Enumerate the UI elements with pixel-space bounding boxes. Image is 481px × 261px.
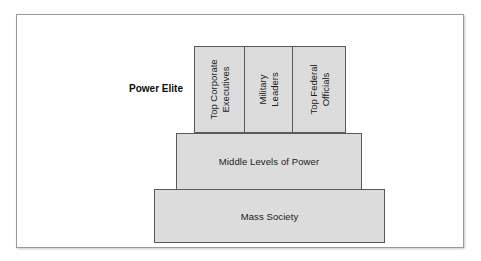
vertical-label-line2: Officials (319, 64, 331, 114)
tier-middle-levels-of-power: Middle Levels of Power (176, 133, 362, 190)
vertical-label-line1: Military (257, 72, 269, 106)
power-elite-cell-top-federal-officials: Top Federal Officials (292, 46, 346, 133)
diagram-canvas: Top Corporate Executives Military Leader… (0, 0, 481, 261)
tier-mass-society: Mass Society (154, 189, 385, 243)
diagram-frame: Top Corporate Executives Military Leader… (16, 14, 464, 248)
vertical-label-line2: Executives (220, 59, 232, 119)
vertical-label-line1: Top Federal (307, 64, 319, 114)
vertical-label-line1: Top Corporate (208, 59, 220, 119)
power-elite-cell-top-corporate-executives: Top Corporate Executives (194, 46, 245, 133)
power-elite-cell-military-leaders: Military Leaders (244, 46, 293, 133)
vertical-label: Top Federal Officials (307, 64, 330, 114)
tier-label: Middle Levels of Power (219, 156, 319, 167)
power-elite-row: Top Corporate Executives Military Leader… (194, 46, 347, 133)
power-elite-caption: Power Elite (120, 83, 192, 94)
tier-label: Mass Society (241, 211, 299, 222)
vertical-label: Military Leaders (257, 72, 280, 106)
vertical-label: Top Corporate Executives (208, 59, 231, 119)
vertical-label-line2: Leaders (269, 72, 281, 106)
